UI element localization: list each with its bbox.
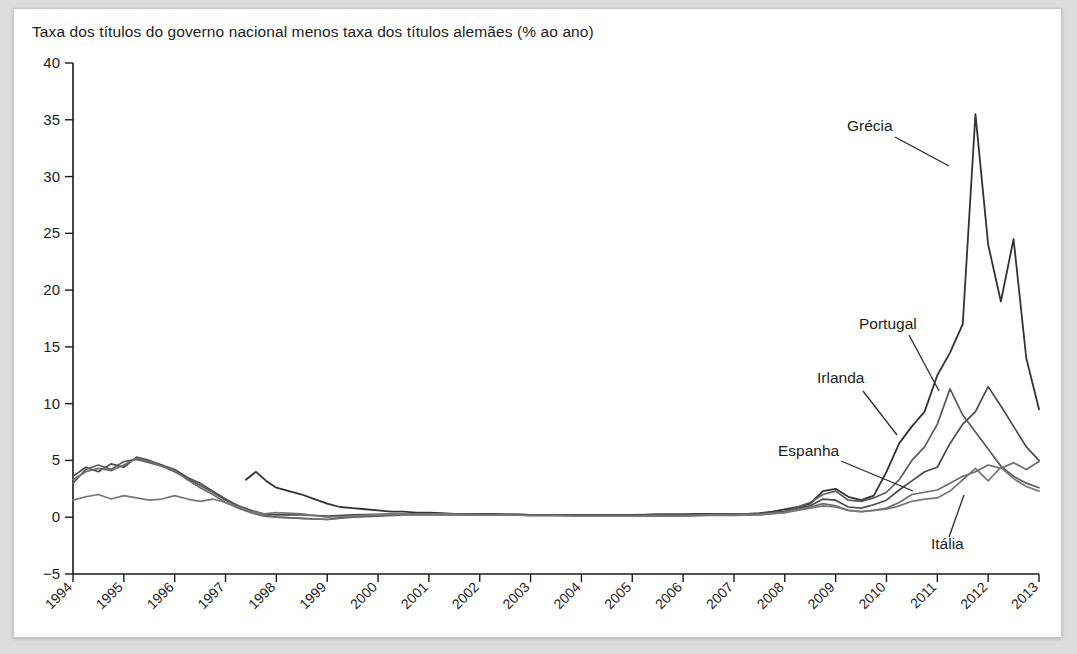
- leader-line-irlanda: [863, 391, 897, 435]
- x-tick-label: 1995: [93, 579, 126, 612]
- y-tick-label: 40: [43, 54, 60, 71]
- y-tick-label: 35: [43, 111, 60, 128]
- series-line-espanha: [73, 458, 1039, 519]
- x-tick-label: 1997: [194, 579, 227, 612]
- series-line-italia: [73, 467, 1039, 517]
- y-axis-ticks: 4035302520151050−5: [43, 54, 73, 582]
- series-label-irlanda: Irlanda: [817, 369, 865, 386]
- y-tick-label: 20: [43, 281, 60, 298]
- y-tick-label: 30: [43, 168, 60, 185]
- series-label-portugal: Portugal: [859, 315, 917, 332]
- x-tick-label: 2001: [398, 579, 431, 612]
- x-tick-label: 2010: [855, 579, 888, 612]
- x-tick-label: 2002: [449, 579, 482, 612]
- series-label-grecia: Grécia: [847, 117, 893, 134]
- y-tick-label: 0: [52, 508, 60, 525]
- line-chart: 4035302520151050−5 199419951996199719981…: [14, 9, 1063, 639]
- y-tick-label: −5: [43, 565, 60, 582]
- x-tick-label: 2003: [499, 579, 532, 612]
- y-tick-label: 5: [52, 451, 60, 468]
- x-tick-label: 2009: [804, 579, 837, 612]
- series-line-grecia: [246, 114, 1039, 515]
- y-tick-label: 25: [43, 224, 60, 241]
- series-annotations: GréciaPortugalIrlandaEspanhaItália: [778, 117, 964, 552]
- x-tick-label: 2006: [652, 579, 685, 612]
- y-tick-label: 15: [43, 338, 60, 355]
- leader-line-grecia: [895, 137, 949, 166]
- x-tick-label: 1996: [143, 579, 176, 612]
- x-tick-label: 2007: [703, 579, 736, 612]
- y-tick-label: 10: [43, 395, 60, 412]
- x-tick-label: 1994: [42, 579, 75, 612]
- x-tick-label: 2013: [1008, 579, 1041, 612]
- x-tick-label: 2005: [601, 579, 634, 612]
- series-line-portugal: [73, 387, 1039, 516]
- series-label-italia: Itália: [931, 535, 964, 552]
- series-label-espanha: Espanha: [778, 442, 840, 459]
- figure-card: Taxa dos títulos do governo nacional men…: [13, 8, 1062, 638]
- x-tick-label: 2000: [347, 579, 380, 612]
- x-tick-label: 1999: [296, 579, 329, 612]
- x-tick-label: 2011: [907, 579, 940, 612]
- x-tick-label: 2004: [550, 579, 583, 612]
- x-axis-ticks: 1994199519961997199819992000200120022003…: [42, 574, 1041, 612]
- screenshot-root: Taxa dos títulos do governo nacional men…: [0, 0, 1077, 654]
- x-tick-label: 2012: [957, 579, 990, 612]
- x-tick-label: 2008: [754, 579, 787, 612]
- leader-line-portugal: [909, 335, 939, 391]
- leader-line-italia: [949, 495, 964, 537]
- x-tick-label: 1998: [245, 579, 278, 612]
